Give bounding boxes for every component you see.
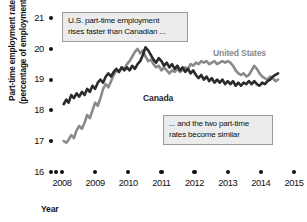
x-tick-dot-2015: [292, 170, 296, 174]
x-tick-dot-2011: [159, 170, 163, 174]
x-tick-label-2012: 2012: [180, 178, 210, 188]
y-tick-label-19: 19: [24, 74, 44, 84]
x-tick-dot-2009: [93, 170, 97, 174]
y-tick-label-17: 17: [24, 136, 44, 146]
x-tick-dot-2014: [259, 170, 263, 174]
callout-us-rises: U.S. part-time employment rises faster t…: [62, 12, 188, 42]
y-tick-dot-19: [49, 78, 53, 82]
callout-us-rises-line2: rises faster than Canadian ...: [68, 27, 182, 38]
x-tick-label-2014: 2014: [246, 178, 276, 188]
y-tick-label-21: 21: [24, 13, 44, 23]
callout-rates-similar-line1: ... and the two part-time: [169, 119, 267, 130]
y-axis-title-line1: Part-time employment rate: [7, 0, 17, 101]
y-tick-dot-17: [49, 139, 53, 143]
callout-rates-similar: ... and the two part-time rates become s…: [163, 115, 273, 145]
x-tick-label-2013: 2013: [213, 178, 243, 188]
y-tick-label-18: 18: [24, 105, 44, 115]
y-tick-dot-16: [49, 170, 53, 174]
x-tick-label-2015: 2015: [279, 178, 307, 188]
x-tick-dot-2012: [192, 170, 196, 174]
y-tick-label-20: 20: [24, 44, 44, 54]
x-axis-title: Year: [41, 204, 59, 214]
y-tick-dot-21: [49, 16, 53, 20]
x-tick-label-2011: 2011: [146, 178, 176, 188]
x-tick-label-2008: 2008: [47, 178, 77, 188]
callout-rates-similar-line2: rates become similar: [169, 130, 267, 141]
y-tick-dot-20: [49, 47, 53, 51]
x-tick-label-2010: 2010: [113, 178, 143, 188]
y-tick-dot-18: [49, 108, 53, 112]
series-label-united-states: United States: [213, 48, 266, 58]
y-tick-label-16: 16: [24, 167, 44, 177]
callout-us-rises-line1: U.S. part-time employment: [68, 16, 182, 27]
x-tick-dot-2008: [60, 170, 64, 174]
series-label-canada: Canada: [143, 93, 173, 103]
x-tick-label-2009: 2009: [80, 178, 110, 188]
chart-root: Part-time employment rate (percentage of…: [0, 0, 307, 222]
x-tick-dot-origin: [54, 170, 58, 174]
x-tick-dot-2013: [226, 170, 230, 174]
x-tick-dot-2010: [126, 170, 130, 174]
